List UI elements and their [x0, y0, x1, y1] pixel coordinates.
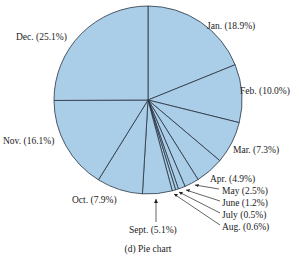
label-nov: Nov. (16.1%) [3, 136, 54, 147]
chart-caption: (d) Pie chart [125, 244, 172, 255]
label-dec: Dec. (25.1%) [16, 32, 67, 43]
label-feb: Feb. (10.0%) [240, 86, 290, 97]
label-mar: Mar. (7.3%) [233, 145, 279, 156]
label-june: June (1.2%) [222, 198, 268, 209]
label-oct: Oct. (7.9%) [72, 195, 117, 206]
label-sept: Sept. (5.1%) [129, 225, 177, 236]
label-may: May (2.5%) [222, 186, 268, 197]
pie-chart: Jan. (18.9%) Feb. (10.0%) Mar. (7.3%) Ap… [0, 0, 295, 257]
slice-dec [54, 6, 148, 100]
label-apr: Apr. (4.9%) [210, 174, 255, 185]
pie-slices [54, 6, 242, 194]
label-aug: Aug. (0.6%) [222, 222, 269, 233]
label-july: July (0.5%) [222, 210, 266, 221]
label-jan: Jan. (18.9%) [207, 21, 255, 32]
